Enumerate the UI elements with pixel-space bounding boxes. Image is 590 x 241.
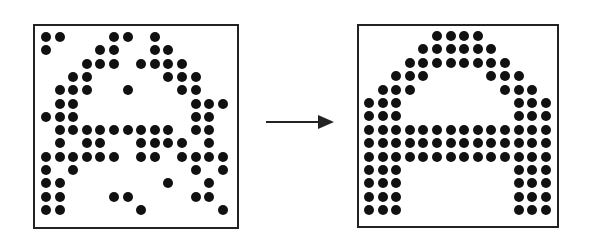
dot <box>446 31 456 41</box>
dot <box>191 192 201 202</box>
dot <box>136 125 146 135</box>
dot <box>123 125 133 135</box>
dot <box>177 85 187 95</box>
dot <box>378 85 388 95</box>
dot <box>527 111 537 121</box>
dot <box>163 45 173 55</box>
dot <box>500 71 510 81</box>
dot <box>527 205 537 215</box>
dot <box>514 152 524 162</box>
dot <box>82 59 92 69</box>
dot <box>473 152 483 162</box>
dot <box>418 71 428 81</box>
dot <box>486 58 496 68</box>
dot <box>378 111 388 121</box>
dot <box>177 152 187 162</box>
clean-dot-grid <box>359 26 557 226</box>
dot <box>391 165 401 175</box>
dot <box>55 205 65 215</box>
dot <box>204 178 214 188</box>
dot <box>109 32 119 42</box>
dot <box>177 72 187 82</box>
dot <box>459 125 469 135</box>
dot <box>364 111 374 121</box>
dot <box>378 165 388 175</box>
noisy-input-pattern-panel <box>33 24 239 229</box>
dot <box>55 192 65 202</box>
dot <box>527 138 537 148</box>
dot <box>123 85 133 95</box>
dot <box>391 138 401 148</box>
dot <box>541 111 551 121</box>
dot <box>391 111 401 121</box>
dot <box>514 111 524 121</box>
dot <box>364 178 374 188</box>
dot <box>204 99 214 109</box>
dot <box>68 112 78 122</box>
dot <box>95 125 105 135</box>
dot <box>378 178 388 188</box>
dot <box>191 99 201 109</box>
dot <box>150 32 160 42</box>
dot <box>41 178 51 188</box>
dot <box>486 152 496 162</box>
dot <box>378 152 388 162</box>
dot <box>514 85 524 95</box>
dot <box>150 45 160 55</box>
arrow-shaft <box>266 121 320 123</box>
dot <box>163 125 173 135</box>
dot <box>391 71 401 81</box>
dot <box>136 138 146 148</box>
dot <box>204 192 214 202</box>
dot <box>95 59 105 69</box>
dot <box>204 125 214 135</box>
dot <box>82 138 92 148</box>
dot <box>432 31 442 41</box>
dot <box>446 44 456 54</box>
dot <box>514 98 524 108</box>
dot <box>405 85 415 95</box>
dot <box>446 58 456 68</box>
dot <box>514 138 524 148</box>
dot <box>68 85 78 95</box>
dot <box>109 45 119 55</box>
dot <box>459 58 469 68</box>
dot <box>364 138 374 148</box>
dot <box>364 98 374 108</box>
dot <box>514 71 524 81</box>
dot <box>150 152 160 162</box>
dot <box>459 31 469 41</box>
dot <box>527 178 537 188</box>
dot <box>541 98 551 108</box>
dot <box>95 138 105 148</box>
dot <box>123 192 133 202</box>
dot <box>446 138 456 148</box>
dot <box>391 98 401 108</box>
dot <box>527 192 537 202</box>
dot <box>391 178 401 188</box>
dot <box>218 152 228 162</box>
dot <box>432 125 442 135</box>
dot <box>500 152 510 162</box>
dot <box>163 138 173 148</box>
dot <box>500 85 510 95</box>
dot <box>55 138 65 148</box>
dot <box>163 72 173 82</box>
dot <box>109 152 119 162</box>
dot <box>68 125 78 135</box>
dot <box>55 112 65 122</box>
dot <box>55 178 65 188</box>
dot <box>432 58 442 68</box>
dot <box>405 138 415 148</box>
dot <box>123 32 133 42</box>
dot <box>527 152 537 162</box>
dot <box>378 98 388 108</box>
dot <box>391 192 401 202</box>
dot <box>405 152 415 162</box>
dot <box>418 138 428 148</box>
dot <box>541 178 551 188</box>
dot <box>446 152 456 162</box>
dot <box>541 165 551 175</box>
dot <box>500 125 510 135</box>
dot <box>473 44 483 54</box>
